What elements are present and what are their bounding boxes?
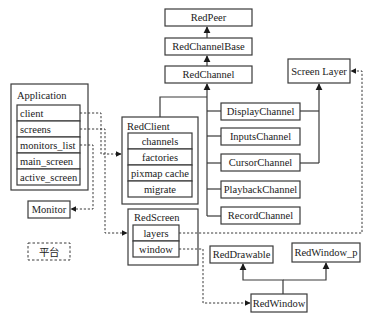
node-label: RedPeer <box>191 12 227 23</box>
node-monitor: Monitor <box>28 201 70 218</box>
node-red-client: RedClient channels factories pixmap cach… <box>122 117 198 204</box>
edge-redclient-to-redchannel <box>160 97 207 117</box>
node-label: RecordChannel <box>228 210 293 221</box>
node-label: RedWindow_p <box>294 247 357 258</box>
field-main-screen: main_screen <box>20 156 74 167</box>
field-client: client <box>20 108 43 119</box>
node-red-channel-base: RedChannelBase <box>165 38 252 55</box>
node-label: Screen Layer <box>291 66 347 77</box>
node-red-peer: RedPeer <box>165 9 252 26</box>
node-record-channel: RecordChannel <box>221 207 300 224</box>
node-playback-channel: PlaybackChannel <box>221 181 300 198</box>
field-migrate: migrate <box>144 184 176 195</box>
node-red-drawable: RedDrawable <box>210 246 273 263</box>
node-label: InputsChannel <box>230 131 291 142</box>
field-channels: channels <box>142 136 179 147</box>
node-red-channel: RedChannel <box>165 66 252 83</box>
node-label: RedScreen <box>134 212 180 223</box>
node-display-channel: DisplayChannel <box>221 103 300 120</box>
field-window: window <box>139 244 173 255</box>
node-label: RedChannel <box>183 69 235 80</box>
field-screens: screens <box>20 124 51 135</box>
node-label: RedWindow <box>253 298 306 309</box>
node-label: Application <box>17 90 67 101</box>
node-label: CursorChannel <box>229 157 293 168</box>
node-screen-layer: Screen Layer <box>288 59 350 83</box>
field-monitors-list: monitors_list <box>20 140 76 151</box>
edge-window-to-window-p <box>283 263 326 280</box>
node-platform: 平台 <box>28 243 70 260</box>
node-label: DisplayChannel <box>227 106 295 117</box>
field-pixmap-cache: pixmap cache <box>131 168 189 179</box>
node-label: RedChannelBase <box>172 41 245 52</box>
field-layers: layers <box>143 228 168 239</box>
edge-window-to-drawable <box>243 264 283 294</box>
node-red-window-p: RedWindow_p <box>292 243 360 262</box>
node-label: RedDrawable <box>213 249 271 260</box>
node-label: 平台 <box>39 246 59 258</box>
node-application: Application client screens monitors_list… <box>11 84 88 190</box>
class-diagram: RedPeer RedChannelBase RedChannel Screen… <box>0 0 374 319</box>
node-label: RedClient <box>127 121 170 132</box>
node-label: Monitor <box>32 204 67 215</box>
node-red-screen: RedScreen layers window <box>128 209 198 265</box>
node-label: PlaybackChannel <box>224 184 298 195</box>
node-inputs-channel: InputsChannel <box>221 128 300 145</box>
field-factories: factories <box>142 152 178 163</box>
field-active-screen: active_screen <box>20 172 78 183</box>
node-cursor-channel: CursorChannel <box>221 154 300 171</box>
node-red-window: RedWindow <box>251 294 307 312</box>
